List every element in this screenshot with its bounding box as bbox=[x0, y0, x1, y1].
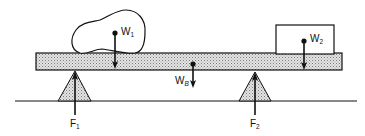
w2-label: W2 bbox=[310, 34, 323, 46]
wb-beam-weight-arrow-icon bbox=[190, 61, 196, 88]
f1-label: F1 bbox=[70, 119, 80, 131]
f1-label-subscript: 1 bbox=[76, 123, 80, 130]
w1-label-subscript: 1 bbox=[130, 31, 134, 38]
f2-label: F2 bbox=[250, 119, 260, 131]
rock-object bbox=[72, 10, 145, 53]
w1-label: W1 bbox=[121, 27, 134, 39]
w2-label-subscript: 2 bbox=[319, 38, 323, 45]
wb-label: WB bbox=[175, 76, 189, 88]
wb-label-subscript: B bbox=[184, 80, 188, 87]
f2-label-subscript: 2 bbox=[256, 123, 260, 130]
beam-diagram bbox=[0, 0, 365, 136]
beam bbox=[36, 53, 342, 70]
